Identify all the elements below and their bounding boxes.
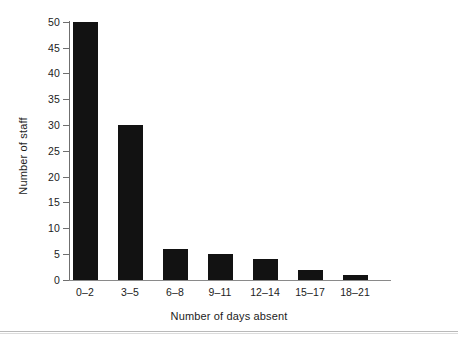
page-divider-rule <box>0 331 458 332</box>
y-tick-label: 30 <box>34 120 60 131</box>
x-axis-line <box>69 280 391 281</box>
bar <box>73 22 98 280</box>
y-tick-label: 15 <box>34 197 60 208</box>
y-tick-label: 10 <box>34 223 60 234</box>
histogram-figure: 0 5 10 15 20 25 30 35 40 45 50 0–2 3–5 6… <box>0 0 458 342</box>
bar <box>298 270 323 280</box>
y-tick-label: 45 <box>34 43 60 54</box>
plot-area <box>69 22 389 280</box>
y-axis-title: Number of staff <box>17 71 29 241</box>
y-tick-label: 25 <box>34 146 60 157</box>
bar <box>163 249 188 280</box>
y-tick-label: 50 <box>34 17 60 28</box>
bar <box>253 259 278 280</box>
y-tick-label: 35 <box>34 94 60 105</box>
x-tick-label: 18–21 <box>328 287 382 298</box>
y-tick-label: 0 <box>34 275 60 286</box>
y-tick-label: 5 <box>34 249 60 260</box>
bar <box>118 125 143 280</box>
x-axis-title: Number of days absent <box>0 310 458 322</box>
y-tick-label: 40 <box>34 68 60 79</box>
bar <box>208 254 233 280</box>
page-divider-rule-shadow <box>0 333 458 334</box>
y-tick-label: 20 <box>34 172 60 183</box>
